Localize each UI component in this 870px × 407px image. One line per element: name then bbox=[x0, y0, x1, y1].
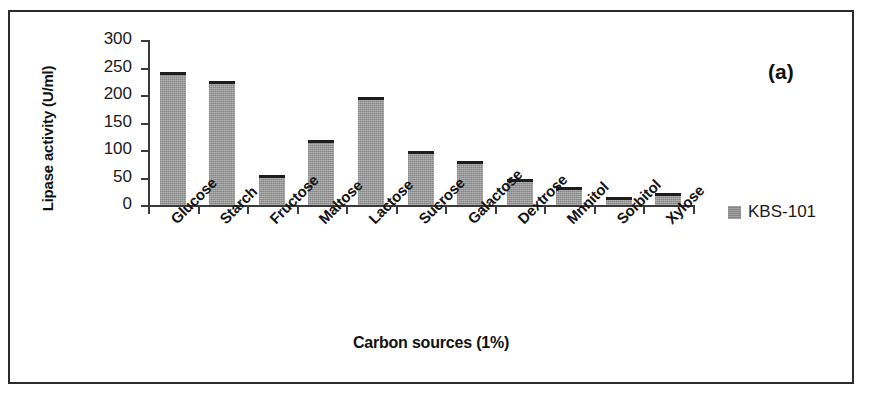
plot-area: 050100150200250300 bbox=[148, 40, 693, 205]
y-axis-tick bbox=[141, 178, 149, 180]
y-axis-tick bbox=[141, 40, 149, 42]
bar bbox=[408, 151, 434, 205]
panel-label: (a) bbox=[768, 60, 794, 84]
x-axis-title: Carbon sources (1%) bbox=[10, 334, 852, 352]
y-axis-tick-label: 150 bbox=[76, 112, 132, 132]
y-axis-tick bbox=[141, 95, 149, 97]
y-axis-tick-label: 0 bbox=[76, 194, 132, 214]
x-axis-tick bbox=[148, 205, 150, 214]
figure-panel: Lipase activity (U/ml) 05010015020025030… bbox=[8, 10, 854, 384]
y-axis-tick bbox=[141, 68, 149, 70]
y-axis-tick-label: 250 bbox=[76, 57, 132, 77]
y-axis-tick bbox=[141, 150, 149, 152]
legend-label: KBS-101 bbox=[748, 202, 816, 222]
y-axis-tick-label: 300 bbox=[76, 29, 132, 49]
bar bbox=[160, 72, 186, 205]
bar bbox=[308, 140, 334, 205]
legend: KBS-101 bbox=[728, 202, 816, 222]
y-axis-tick bbox=[141, 123, 149, 125]
y-axis-tick-label: 200 bbox=[76, 84, 132, 104]
legend-swatch-icon bbox=[728, 206, 741, 219]
y-axis-title: Lipase activity (U/ml) bbox=[39, 44, 56, 234]
y-axis-tick-label: 100 bbox=[76, 139, 132, 159]
y-axis-tick-label: 50 bbox=[76, 167, 132, 187]
